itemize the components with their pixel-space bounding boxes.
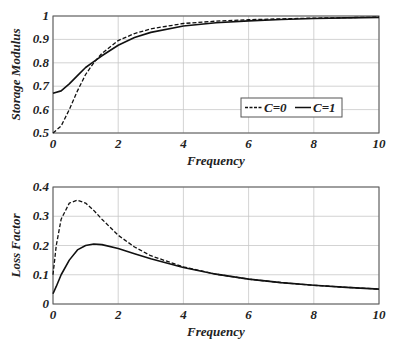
legend-entry-c1: C=1 bbox=[313, 100, 336, 115]
y-tick-label: 0.2 bbox=[33, 238, 50, 253]
x-tick-label: 2 bbox=[114, 307, 122, 322]
x-tick-label: 2 bbox=[114, 136, 122, 151]
loss-factor-plot: 024681000.10.20.30.4FrequencyLoss Factor bbox=[8, 179, 386, 339]
figure: 02468100.50.60.70.80.91FrequencyStorage … bbox=[0, 0, 397, 350]
legend: C=0C=1 bbox=[241, 98, 342, 117]
x-tick-label: 10 bbox=[373, 307, 387, 322]
x-tick-label: 4 bbox=[179, 136, 187, 151]
x-tick-label: 0 bbox=[50, 136, 57, 151]
y-tick-label: 0.6 bbox=[33, 102, 50, 117]
y-tick-label: 0 bbox=[43, 296, 50, 311]
series-line-c-1 bbox=[53, 244, 379, 294]
y-tick-label: 0.7 bbox=[33, 78, 50, 93]
legend-entry-c0: C=0 bbox=[264, 100, 287, 115]
x-axis-label: Frequency bbox=[186, 324, 245, 339]
y-tick-label: 0.1 bbox=[33, 267, 49, 282]
x-tick-label: 0 bbox=[50, 307, 57, 322]
y-tick-label: 0.9 bbox=[33, 31, 50, 46]
x-tick-label: 8 bbox=[311, 307, 318, 322]
y-axis-label: Storage Modulus bbox=[8, 28, 23, 120]
y-tick-label: 0.4 bbox=[33, 179, 50, 194]
x-tick-label: 6 bbox=[245, 136, 252, 151]
y-tick-label: 0.3 bbox=[33, 208, 50, 223]
y-tick-label: 0.5 bbox=[33, 125, 50, 140]
y-axis-label: Loss Factor bbox=[8, 213, 23, 279]
y-tick-label: 0.8 bbox=[33, 55, 50, 70]
x-tick-label: 8 bbox=[311, 136, 318, 151]
storage-modulus-plot: 02468100.50.60.70.80.91FrequencyStorage … bbox=[8, 8, 386, 168]
x-tick-label: 6 bbox=[245, 307, 252, 322]
y-tick-label: 1 bbox=[43, 8, 50, 23]
x-tick-label: 4 bbox=[179, 307, 187, 322]
x-tick-label: 10 bbox=[373, 136, 387, 151]
series-line-c-1 bbox=[53, 17, 379, 93]
x-axis-label: Frequency bbox=[186, 153, 245, 168]
